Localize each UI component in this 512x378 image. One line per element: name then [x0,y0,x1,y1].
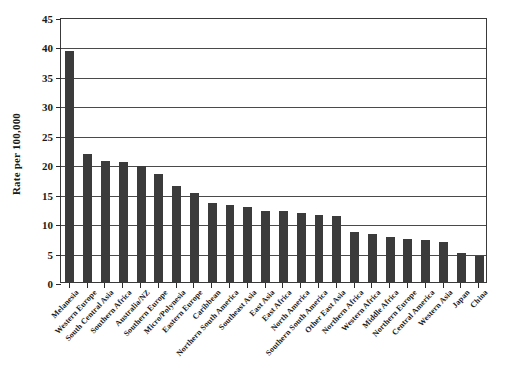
bar [208,203,217,283]
y-axis-tick-label: 40 [42,42,53,54]
y-axis-tick-label: 45 [42,13,53,25]
y-axis-tick-label: 5 [48,249,54,261]
x-axis-tick-label: China [468,288,489,310]
bar [154,174,163,282]
bar [297,213,306,282]
x-axis-tick-label: Japan [451,288,472,310]
x-axis-labels: MelanesiaWestern EuropeSouth Central Asi… [60,288,487,378]
bar [261,211,270,282]
bar-chart-figure: Rate per 100,000 051015202530354045 Mela… [0,0,512,378]
y-axis-tick-label: 20 [42,160,53,172]
y-axis-tick-label: 30 [42,101,53,113]
y-axis-tick-label: 25 [42,131,53,143]
bar [243,207,252,282]
bar [421,240,430,282]
y-axis-tick-label: 15 [42,190,53,202]
bar [332,216,341,282]
plot-area: 051015202530354045 [60,18,487,283]
bar [439,242,448,282]
bar [350,232,359,282]
y-axis-tick-label: 10 [42,219,53,231]
bar [475,256,484,283]
bar [65,51,74,282]
bar [226,205,235,282]
bar [172,186,181,282]
bar [83,154,92,282]
y-axis-tick-label: 35 [42,72,53,84]
bar [457,253,466,282]
bar [137,166,146,282]
y-axis-title: Rate per 100,000 [10,54,22,254]
bar [190,193,199,283]
bars-layer [61,19,486,282]
bar [403,239,412,282]
bar [315,215,324,282]
y-axis-tick-label: 0 [48,278,54,290]
bar [279,211,288,282]
bar [101,161,110,282]
y-axis-tick [56,284,61,285]
bar [368,234,377,282]
bar [386,237,395,282]
bar [119,162,128,282]
